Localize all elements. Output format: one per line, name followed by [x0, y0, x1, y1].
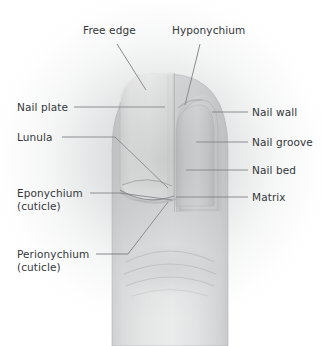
label-perionychium-subtext: (cuticle) [17, 261, 89, 274]
label-free-edge: Free edge [83, 24, 136, 37]
label-lunula: Lunula [17, 131, 53, 144]
label-nail-groove-text: Nail groove [252, 136, 313, 148]
label-eponychium-subtext: (cuticle) [17, 200, 83, 213]
label-perionychium-text: Perionychium [17, 248, 89, 260]
label-nail-bed-text: Nail bed [252, 164, 296, 176]
label-nail-bed: Nail bed [252, 164, 296, 177]
label-hyponychium: Hyponychium [172, 24, 245, 37]
label-free-edge-text: Free edge [83, 24, 136, 36]
finger-creases [114, 244, 226, 296]
nail-bed [176, 105, 214, 206]
label-nail-groove: Nail groove [252, 136, 313, 149]
fingernail-anatomy-diagram: Free edge Hyponychium Nail plate Lunula … [0, 0, 322, 346]
label-nail-wall: Nail wall [252, 106, 297, 119]
label-matrix-text: Matrix [252, 191, 286, 203]
label-nail-plate: Nail plate [17, 101, 68, 114]
label-perionychium: Perionychium (cuticle) [17, 248, 89, 274]
label-nail-wall-text: Nail wall [252, 106, 297, 118]
label-eponychium: Eponychium (cuticle) [17, 187, 83, 213]
label-lunula-text: Lunula [17, 131, 53, 143]
label-hyponychium-text: Hyponychium [172, 24, 245, 36]
label-matrix: Matrix [252, 191, 286, 204]
label-nail-plate-text: Nail plate [17, 101, 68, 113]
label-eponychium-text: Eponychium [17, 187, 83, 199]
